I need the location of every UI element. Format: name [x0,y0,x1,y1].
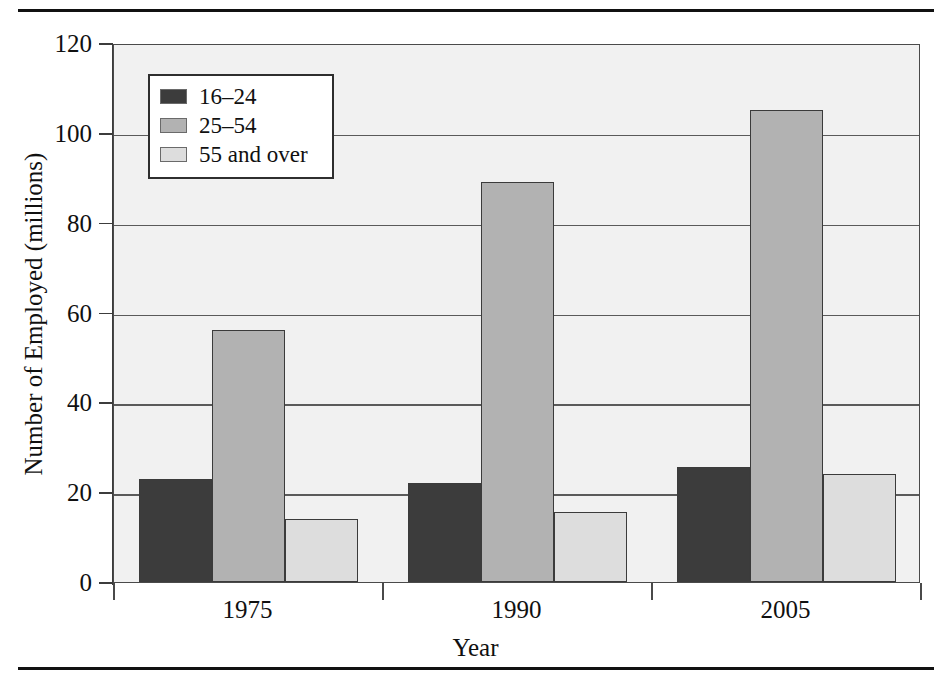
y-axis-tick-label: 80 [0,211,92,236]
y-axis-tick-label: 20 [0,480,92,505]
chart-legend: 16–24 25–54 55 and over [148,74,334,179]
y-axis-tick [99,133,113,135]
x-axis-tick-label-2005: 2005 [706,596,866,624]
legend-swatch-55-and-over [160,147,187,162]
legend-label-16-24: 16–24 [199,85,257,108]
bar-1990-25–54 [481,182,554,582]
x-axis-tick-label-1990: 1990 [437,596,597,624]
y-axis-tick-label: 100 [0,121,92,146]
x-axis-tick [382,583,384,600]
y-axis-tick [99,402,113,404]
bottom-divider-rule [18,667,934,670]
legend-item: 25–54 [160,111,322,140]
bar-2005-16–24 [677,467,750,582]
legend-label-55-and-over: 55 and over [199,143,308,166]
y-axis-tick [99,313,113,315]
bar-1990-16–24 [408,483,481,582]
x-axis-title: Year [0,634,951,662]
x-axis-tick-label-1975: 1975 [168,596,328,624]
bar-1975-16–24 [139,479,212,582]
y-axis-tick [99,582,113,584]
bar-1990-55-and-over [554,512,627,582]
bar-1975-55-and-over [285,519,358,582]
bar-2005-25–54 [750,110,823,582]
y-axis-tick-label: 40 [0,390,92,415]
y-axis-tick-label: 120 [0,31,92,56]
bar-1975-25–54 [212,330,285,582]
legend-item: 16–24 [160,82,322,111]
legend-item: 55 and over [160,140,322,169]
x-axis-tick [920,583,922,600]
top-divider-rule [18,9,934,12]
y-axis-tick-label: 60 [0,301,92,326]
legend-label-25-54: 25–54 [199,114,257,137]
legend-swatch-25-54 [160,118,187,133]
legend-swatch-16-24 [160,89,187,104]
y-axis-tick [99,492,113,494]
y-axis-tick [99,43,113,45]
y-axis-tick-label: 0 [0,570,92,595]
bar-2005-55-and-over [823,474,896,582]
x-axis-tick [651,583,653,600]
x-axis-tick [113,583,115,600]
figure-page: Number of Employed (millions) Year 02040… [0,0,951,690]
y-axis-tick [99,223,113,225]
